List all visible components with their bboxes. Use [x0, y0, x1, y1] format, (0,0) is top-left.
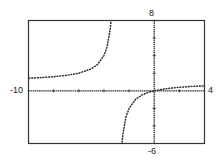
curve-branch: [29, 0, 114, 78]
axes: [29, 21, 205, 144]
xmax-label: 4: [208, 85, 213, 95]
graph-plot: [0, 0, 224, 164]
ymin-label: -6: [148, 146, 156, 156]
plot-frame: [29, 21, 205, 144]
function-curve: [29, 0, 205, 164]
ymax-label: 8: [149, 8, 154, 18]
xmin-label: -10: [10, 85, 23, 95]
curve-branch: [120, 86, 205, 164]
